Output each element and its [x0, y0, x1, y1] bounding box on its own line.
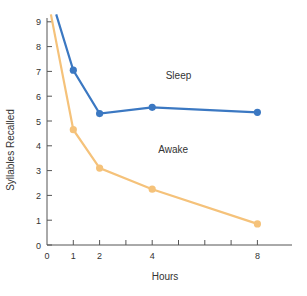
data-point [70, 126, 77, 133]
series-label-awake: Awake [158, 144, 188, 155]
y-axis-label: Syllables Recalled [5, 109, 16, 191]
series-label-sleep: Sleep [166, 70, 192, 81]
x-tick-label: 2 [97, 251, 102, 261]
y-tick-label: 1 [36, 216, 41, 226]
data-point [96, 110, 103, 117]
series-line [56, 14, 257, 113]
data-point [149, 104, 156, 111]
y-tick-label: 5 [36, 117, 41, 127]
series-line [51, 14, 258, 224]
x-axis-label: Hours [152, 271, 179, 282]
y-tick-label: 7 [36, 67, 41, 77]
x-tick-label: 8 [255, 251, 260, 261]
data-point [254, 220, 261, 227]
series-sleep [56, 14, 261, 117]
y-tick-label: 4 [36, 141, 41, 151]
series-group [51, 14, 261, 227]
series-awake [51, 14, 261, 227]
data-point [96, 165, 103, 172]
data-point [70, 67, 77, 74]
y-tick-label: 2 [36, 191, 41, 201]
y-tick-label: 8 [36, 42, 41, 52]
axes: 012345678901248 [36, 17, 292, 261]
x-tick-label: 1 [71, 251, 76, 261]
x-tick-label: 4 [150, 251, 155, 261]
chart: 012345678901248 Hours Syllables Recalled… [0, 0, 307, 296]
x-tick-label: 0 [44, 251, 49, 261]
y-tick-label: 3 [36, 166, 41, 176]
y-tick-label: 0 [36, 241, 41, 251]
data-point [149, 186, 156, 193]
data-point [254, 109, 261, 116]
y-tick-label: 6 [36, 92, 41, 102]
y-tick-label: 9 [36, 17, 41, 27]
